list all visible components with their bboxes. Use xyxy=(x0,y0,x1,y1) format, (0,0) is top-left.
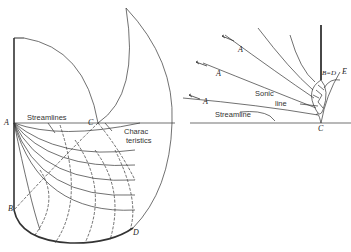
point-b-equals-d: B=D xyxy=(322,70,336,77)
arrow-label-a-2: A xyxy=(216,70,221,78)
cusp-inner xyxy=(98,8,130,123)
point-a: A xyxy=(4,119,9,127)
streamlines-label: Streamlines xyxy=(27,114,67,122)
point-c-right: C xyxy=(318,125,323,133)
point-e: E xyxy=(342,68,347,76)
diagram-canvas xyxy=(0,0,351,252)
wall-bd xyxy=(14,210,133,243)
arrow-label-a-3: A xyxy=(203,98,208,106)
point-b: B xyxy=(8,205,13,213)
arrow-label-a-1: A xyxy=(238,46,243,54)
characteristics-label-1: Charac xyxy=(124,128,148,136)
characteristics-label-2: teristics xyxy=(126,137,151,145)
point-c: C xyxy=(88,119,93,127)
sonic-line-label-1: Sonic xyxy=(255,90,274,98)
sonic-line-label-2: line xyxy=(275,100,287,108)
point-d: D xyxy=(133,229,139,237)
sonic-arc xyxy=(24,38,98,123)
streamline-label: Streamline xyxy=(215,111,251,119)
